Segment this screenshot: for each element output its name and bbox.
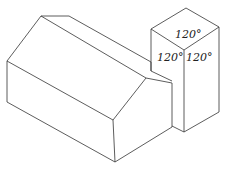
front-corner [113, 120, 115, 162]
angle-label-left: 120° [157, 52, 184, 63]
angle-label-top: 120° [175, 29, 202, 40]
house-left-gable [7, 16, 69, 102]
isometric-diagram: 120° 120° 120° [0, 0, 226, 172]
front-base [7, 102, 115, 162]
right-base [115, 127, 172, 162]
roof-back-edge [69, 16, 151, 62]
house-tower-drawing [0, 0, 226, 172]
gable-left [113, 78, 146, 120]
roof-tower-junction [151, 62, 172, 81]
tower-base [172, 112, 219, 132]
roof-ridge [41, 16, 146, 78]
angle-label-right: 120° [186, 52, 213, 63]
